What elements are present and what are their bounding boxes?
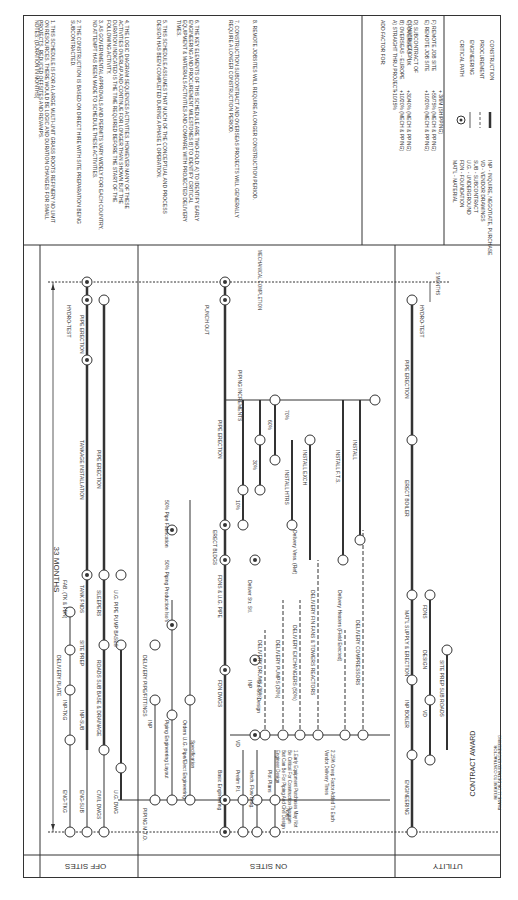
activity-punch-out: PUNCH OUT	[204, 305, 210, 335]
activity-inp-tkg: INP-TKG	[62, 700, 68, 720]
activity-install-fts: INSTALL F.T.S.	[335, 450, 341, 484]
activity-fdns-ug-pipe: FDNS & U.G. PIPE	[217, 575, 223, 618]
increment-30: 30%	[252, 460, 258, 470]
activity-install: INSTALL	[352, 440, 358, 460]
section-offsites: OFF SITES	[65, 862, 106, 871]
activity-fdn-dwgs: FDN DWGS	[217, 680, 223, 707]
activity-basic-engineering: Basic Engineering	[217, 770, 223, 810]
legend-procurement: PROCUREMENT	[479, 40, 485, 79]
activity-eng-tkg: ENG-TKG	[62, 790, 68, 813]
activity-delivery-heaters: Delivery Heaters (Field Erected)	[337, 590, 343, 661]
increment-60: 60%	[267, 420, 273, 430]
onsites-note-1: 1.Early Equipment Purchases May Not Be C…	[274, 750, 298, 830]
activity-50pct-piping-iso: 50% Piping Production Iso's	[164, 560, 170, 622]
contract-award-sub2: RELEASE TO CONTRACTOR	[493, 745, 498, 799]
activity-inp-piping: INP	[147, 720, 153, 728]
activity-specification: Specification	[190, 740, 196, 768]
activity-piping-mto: PIPING M.T.O.	[142, 808, 148, 841]
activity-site-prep: SITE PREP	[79, 640, 85, 666]
note-3: 3. AS GOVERNMENTAL APPROVALS AND PERMITS…	[92, 20, 104, 230]
mechanical-completion-label: MECHANICAL COMPLETION	[256, 250, 262, 310]
note-4: 4. THE LOGIC DIAGRAM SEQUENCES ACTIVITIE…	[106, 20, 130, 230]
duration-label: 33 MONTHS	[52, 547, 61, 593]
activity-ug-dwg: U.G. DWG	[113, 790, 119, 814]
add-factor-d: D) SUBCONTRACT OF CONSTRUCTION	[407, 20, 419, 80]
activity-delivery-pumps: DELIVERY PUMPS (30%)	[275, 640, 281, 698]
activity-install-exch: INSTALL EXCH	[302, 450, 308, 485]
activity-prelim-pi: Prelim P.I.	[235, 770, 241, 792]
activity-delivery-compressors: DELIVERY COMPRESSORS	[355, 620, 361, 685]
activity-erect-bldgs: ERECT BLDGS	[212, 530, 218, 565]
activity-delivery-plate: DELIVERY PLATE	[56, 655, 62, 696]
activity-hydro-test-offsites: HYDRO-TEST	[66, 305, 72, 338]
activity-civil-dwgs: CIVIL DWGS	[96, 790, 102, 819]
activity-str-stl-design: Str. Stl. Design	[256, 680, 262, 713]
add-factor-a-value: +10/15%	[392, 90, 398, 110]
activity-engineering-utility: ENGINEERING	[404, 780, 410, 815]
add-factor-b: B) OVERSEAS - EUROPE	[399, 20, 405, 79]
activity-sleepers: SLEEPERS	[96, 590, 102, 616]
activity-erect-boiler: ERECT BOILER	[404, 480, 410, 517]
add-factor-heading: ADD FACTOR FOR:	[380, 20, 386, 65]
activity-delivery-exchangers: DELIVERY EXCHANGERS (50%)	[292, 625, 298, 701]
onsites-note-2: 2.15% Creep Factor Added To Each Vendor …	[323, 750, 335, 830]
activity-50pct-pipe-fab: 50% Pipe Fabrication	[164, 500, 170, 548]
add-factor-f: F) REMOTE JOB SITE	[431, 20, 437, 71]
activity-vd-utility: VD	[422, 710, 428, 717]
activity-pipe-erection-utility: PIPE ERECTION	[404, 360, 410, 399]
section-onsites: ON SITES	[250, 862, 287, 871]
activity-site-prep-sub-roads: SITE PREP SUB ROADS	[439, 660, 445, 717]
contract-award-sub1: PHASE 11 OR DETAILED ENGINEERING	[497, 735, 502, 810]
legend-symbols	[457, 112, 490, 128]
increment-70: 70%	[284, 410, 290, 420]
add-factor-shipping: + 3/6M (SHIPPING)	[438, 90, 444, 134]
activity-matl-supply-erection: MAT'L SUPPLY & ERECTION	[404, 610, 410, 676]
activity-delivery-pipe-fittings: DELIVERY PIPE/FITTINGS	[142, 655, 148, 717]
activity-delivery-fin-fans: DELIVERY FIN FANS & TOWERS REACTORS	[310, 590, 316, 695]
note-7: 7. CONSTRUCTION SUBCONTRACT AND OVERSEAS…	[228, 20, 240, 230]
activity-vd-onsites: VD	[235, 740, 241, 747]
activity-delivery-vess: Delivery Vess. (Ref)	[292, 530, 298, 574]
label-piping-increments: PIPING INCREMENTS	[237, 370, 243, 421]
abbr-5: VD - VENDOR DRAWINGS	[480, 160, 486, 221]
legend-critical-path: CRITICAL PATH	[459, 40, 465, 77]
activity-fdns-utility: FDNS	[422, 605, 428, 619]
abbr-2: FDN - FOUNDATION	[459, 160, 465, 207]
activity-mech-flow-diag: Mech. Flow Diag.	[249, 770, 255, 809]
add-factor-f-value: +55/75% (MECH & PPING)	[431, 90, 437, 151]
three-months-label: 3 MONTHS	[434, 272, 440, 295]
activity-roads-sub-base: ROADS SUB BASE & DRAINAGE	[96, 660, 102, 736]
add-factor-c-value: +30/40% (MECH & PPING)	[406, 90, 412, 151]
activity-pipe-erection-offsites-1: PIPE ERECTION	[79, 315, 85, 354]
abbr-6: INP - INQUIRE, NEGOTIATE, PURCHASE	[487, 160, 493, 255]
activity-eng-sub: ENG-SUB	[79, 790, 85, 813]
activity-ug-pipe-pump-bases: U.G. PIPE PUMP BASES	[113, 590, 119, 647]
add-factor-a: A) STRAIGHT THRU PROJECT	[392, 20, 398, 92]
note-1: 1. THIS SCHEDULE IS FOR A LARGE MULTI-UN…	[38, 20, 56, 230]
note-8: 8. REMOTE JOBSITES WILL REQUIRE A LONGER…	[252, 20, 258, 230]
add-factor-e: E) REMOTE JOB SITE	[424, 20, 430, 71]
activity-pipe-erection-offsites-2: PIPE ERECTION	[96, 450, 102, 489]
note-2: 2. THE CONSTRUCTION IS BASED ON DIRECT H…	[70, 20, 82, 230]
section-utility: UTILITY	[433, 862, 463, 871]
note-6: 6. THE KEY ELEMENTS OF THIS SCHEDULE ARE…	[176, 20, 200, 230]
activity-inp-sub: INP-SUB	[79, 710, 85, 730]
add-factor-e-value: +10/20% (MECH & PPING)	[424, 90, 430, 151]
legend-construction: CONSTRUCTION	[489, 40, 495, 80]
activity-pipe-erection-onsites: PIPE ERECTION	[217, 420, 223, 459]
activity-deliver-str-stl: Deliver Str. Stl.	[247, 580, 253, 613]
note-5: 5. THIS SCHEDULE ASSUMES THAT MUCH OF TH…	[156, 20, 168, 230]
activity-plot-plans: Plot Plans	[267, 770, 273, 793]
activity-inp-onsites: INP	[247, 680, 253, 688]
add-factor-b-value: +10/20% (MECH & PPING)	[399, 90, 405, 151]
abbr-3: U.G. - UNDERGROUND	[466, 160, 472, 215]
activity-fab: FAB. (TK & FDN)	[62, 580, 68, 618]
activity-design-utility: DESIGN	[422, 650, 428, 669]
activity-tankage-installation: TANKAGE INSTALLATION	[79, 440, 85, 500]
abbr-4: SUB - SUBCONTRACT	[473, 160, 479, 213]
activity-inp-boiler: INP BOILER	[404, 700, 410, 728]
legend-engineering: ENGINEERING	[469, 40, 475, 75]
activity-hydro-test-utility: HYDRO-TEST	[419, 305, 425, 338]
abbr-1: MAT'L - MATERIAL	[452, 160, 458, 203]
activity-piping-engineering-layout: Piping Engineering Layout	[164, 720, 170, 778]
